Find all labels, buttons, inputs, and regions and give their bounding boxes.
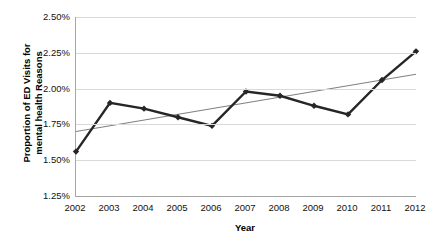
gridline	[76, 17, 416, 18]
gridline	[76, 53, 416, 54]
gridline	[76, 160, 416, 161]
trend-line	[76, 74, 416, 131]
plot-series-svg	[76, 17, 416, 196]
x-axis-title: Year	[75, 222, 415, 233]
x-axis-tick-label: 2012	[395, 202, 433, 214]
plot-area	[75, 17, 416, 197]
data-point-marker	[141, 105, 147, 111]
data-point-markers	[73, 48, 419, 155]
gridline	[76, 124, 416, 125]
y-axis-tick-label: 1.50%	[24, 155, 70, 165]
chart-figure: Proportion of ED Visits for mental healt…	[0, 0, 433, 249]
gridline	[76, 89, 416, 90]
x-axis-tick-labels: 2002200320042005200620072008200920102011…	[75, 202, 415, 218]
y-axis-tick-label: 2.25%	[24, 48, 70, 58]
y-axis-tick-label: 2.50%	[24, 12, 70, 22]
y-axis-tick-label: 1.75%	[24, 119, 70, 129]
data-point-marker	[311, 103, 317, 109]
data-line	[76, 51, 416, 151]
y-axis-tick-label: 1.25%	[24, 191, 70, 201]
y-axis-tick-label: 2.00%	[24, 84, 70, 94]
